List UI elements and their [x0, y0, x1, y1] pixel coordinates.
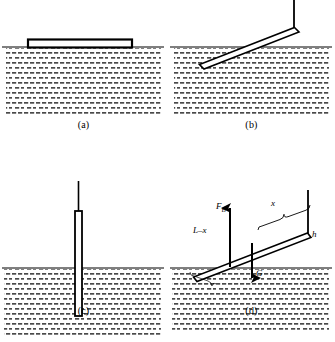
- label-weight: G: [256, 269, 263, 278]
- panel-a: [0, 0, 167, 171]
- panel-c: [0, 171, 167, 342]
- rod-a: [28, 40, 132, 48]
- caption-d: (d): [168, 305, 335, 316]
- panel-b: [168, 0, 335, 171]
- water-body-b: [174, 48, 329, 114]
- water-body-a: [6, 48, 161, 114]
- caption-b: (b): [168, 119, 335, 130]
- brace-x: [258, 205, 310, 230]
- caption-c: (c): [0, 305, 167, 316]
- label-emerged-length: x: [271, 199, 275, 208]
- label-submerged-length: L–x: [193, 226, 207, 235]
- label-buoyant-force: FB: [216, 202, 226, 213]
- label-height: h: [312, 230, 317, 239]
- rod-c: [75, 211, 82, 316]
- panel-d-drawing: [168, 171, 335, 342]
- panel-c-drawing: [0, 171, 167, 342]
- panel-a-drawing: [0, 0, 167, 171]
- caption-a: (a): [0, 119, 167, 130]
- physics-figure: (a) (b): [0, 0, 335, 342]
- panel-b-drawing: [168, 0, 335, 171]
- panel-d: [168, 171, 335, 342]
